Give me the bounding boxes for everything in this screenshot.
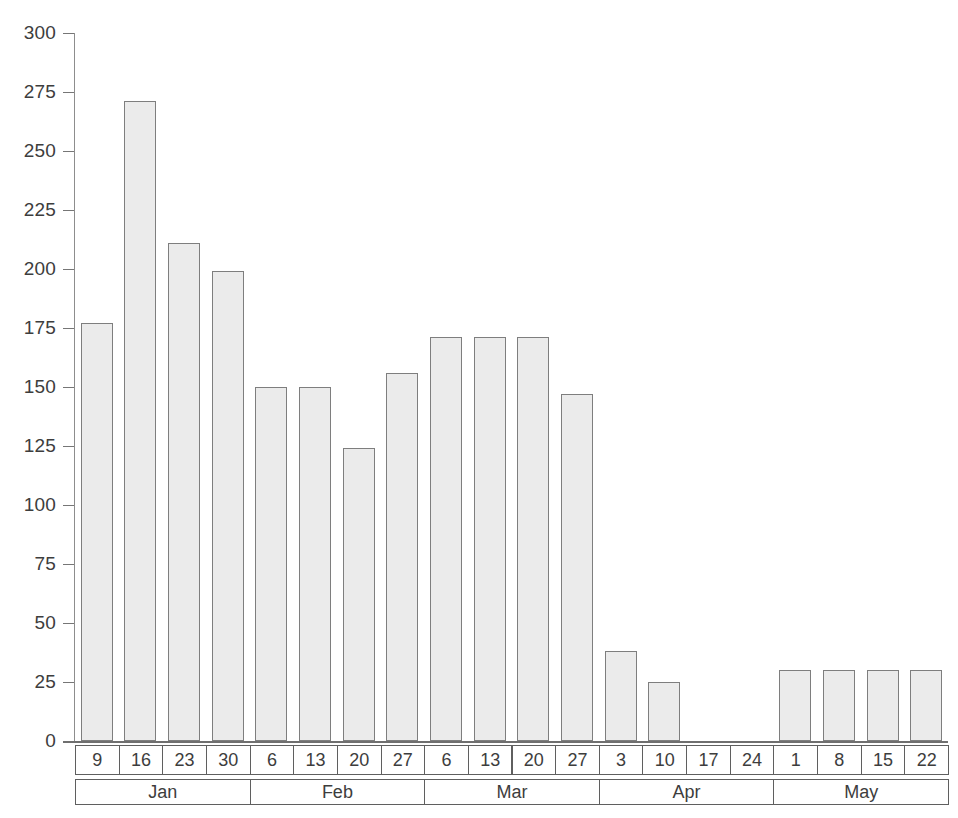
y-axis-tick-label: 150 bbox=[4, 377, 56, 396]
x-axis-day-cell: 10 bbox=[642, 745, 687, 775]
bar bbox=[779, 670, 811, 741]
x-axis-day-cell: 27 bbox=[381, 745, 426, 775]
x-axis-day-cell: 9 bbox=[75, 745, 120, 775]
y-axis-tick-label: 250 bbox=[4, 141, 56, 160]
x-axis-day-cell: 13 bbox=[468, 745, 513, 775]
x-axis-day-cell: 20 bbox=[512, 745, 557, 775]
x-axis-month-cell: Jan bbox=[75, 779, 251, 805]
bar bbox=[81, 323, 113, 741]
bar bbox=[474, 337, 506, 741]
y-axis-tick-label: 25 bbox=[4, 672, 56, 691]
bar bbox=[561, 394, 593, 741]
x-axis-day-cell: 20 bbox=[337, 745, 382, 775]
y-axis-tick-label: 200 bbox=[4, 259, 56, 278]
y-axis-tick-label: 50 bbox=[4, 613, 56, 632]
y-axis-tick-mark bbox=[63, 387, 74, 388]
x-axis-month-row: JanFebMarAprMay bbox=[75, 779, 948, 805]
x-axis-month-cell: May bbox=[773, 779, 949, 805]
chart-title bbox=[0, 0, 958, 4]
bar bbox=[823, 670, 855, 741]
y-axis-tick-label: 0 bbox=[4, 731, 56, 750]
y-axis: 3002752502252001751501251007550250 bbox=[0, 0, 56, 818]
bar bbox=[605, 651, 637, 741]
y-axis-tick-mark bbox=[63, 682, 74, 683]
bar bbox=[910, 670, 942, 741]
y-axis-tick-mark bbox=[63, 446, 74, 447]
y-axis-tick-mark bbox=[63, 328, 74, 329]
x-axis-day-cell: 15 bbox=[861, 745, 906, 775]
y-axis-tick-mark bbox=[63, 564, 74, 565]
x-axis-day-cell: 13 bbox=[293, 745, 338, 775]
x-axis-day-cell: 6 bbox=[250, 745, 295, 775]
bar bbox=[430, 337, 462, 741]
bar bbox=[386, 373, 418, 741]
y-axis-tick-label: 175 bbox=[4, 318, 56, 337]
bar bbox=[124, 101, 156, 741]
bar bbox=[343, 448, 375, 741]
bar bbox=[517, 337, 549, 741]
bar-chart: 3002752502252001751501251007550250 91623… bbox=[0, 0, 958, 818]
x-axis-day-cell: 6 bbox=[424, 745, 469, 775]
y-axis-tick-mark bbox=[63, 505, 74, 506]
bar bbox=[299, 387, 331, 741]
x-axis-day-row: 9162330613202761320273101724181522 bbox=[75, 745, 948, 775]
y-axis-tick-label: 300 bbox=[4, 23, 56, 42]
y-axis-tick-label: 100 bbox=[4, 495, 56, 514]
y-axis-tick-label: 125 bbox=[4, 436, 56, 455]
bar bbox=[255, 387, 287, 741]
y-axis-tick-label: 275 bbox=[4, 82, 56, 101]
y-axis-tick-mark bbox=[63, 33, 74, 34]
x-axis-spine bbox=[63, 741, 948, 743]
y-axis-tick-label: 225 bbox=[4, 200, 56, 219]
plot-area bbox=[75, 33, 948, 741]
x-axis-day-cell: 8 bbox=[817, 745, 862, 775]
x-axis-day-cell: 17 bbox=[686, 745, 731, 775]
x-axis-month-cell: Apr bbox=[599, 779, 775, 805]
x-axis-day-cell: 30 bbox=[206, 745, 251, 775]
x-axis-month-cell: Feb bbox=[250, 779, 426, 805]
x-axis-day-cell: 23 bbox=[162, 745, 207, 775]
y-axis-tick-mark bbox=[63, 92, 74, 93]
bar bbox=[168, 243, 200, 741]
x-axis-day-cell: 3 bbox=[599, 745, 644, 775]
y-axis-tick-mark bbox=[63, 151, 74, 152]
bar bbox=[648, 682, 680, 741]
y-axis-tick-mark bbox=[63, 210, 74, 211]
y-axis-tick-label: 75 bbox=[4, 554, 56, 573]
x-axis-day-cell: 24 bbox=[730, 745, 775, 775]
y-axis-tick-mark bbox=[63, 623, 74, 624]
x-axis-day-cell: 22 bbox=[904, 745, 949, 775]
bar bbox=[212, 271, 244, 741]
x-axis-month-cell: Mar bbox=[424, 779, 600, 805]
x-axis-day-cell: 16 bbox=[119, 745, 164, 775]
bar bbox=[867, 670, 899, 741]
y-axis-tick-mark bbox=[63, 269, 74, 270]
x-axis-day-cell: 1 bbox=[773, 745, 818, 775]
x-axis-day-cell: 27 bbox=[555, 745, 600, 775]
